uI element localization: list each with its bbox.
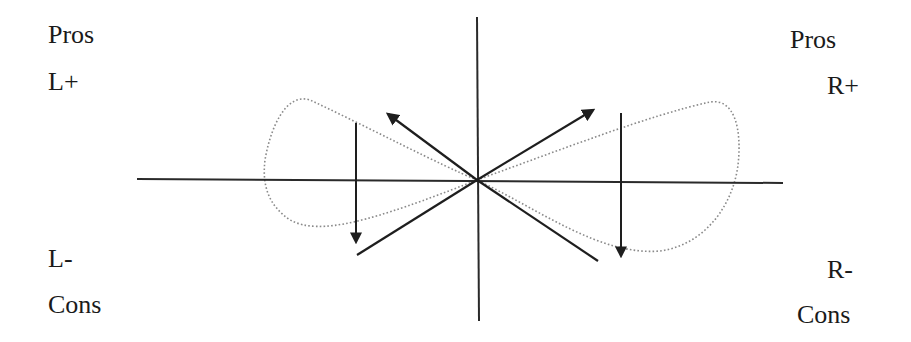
diagram-svg <box>0 0 911 342</box>
dotted-loop-right-lobe <box>477 102 739 252</box>
lower-left-line <box>357 180 477 255</box>
horizontal-axis <box>137 179 783 183</box>
vertical-axis <box>477 17 479 321</box>
upper-left-arrow <box>388 114 477 180</box>
dotted-loop <box>264 99 739 251</box>
lower-right-line <box>477 180 598 261</box>
diagram-canvas: Pros L+ Pros R+ L- Cons R- Cons <box>0 0 911 342</box>
dotted-loop-left-lobe <box>264 99 477 227</box>
upper-right-arrow <box>477 110 593 180</box>
